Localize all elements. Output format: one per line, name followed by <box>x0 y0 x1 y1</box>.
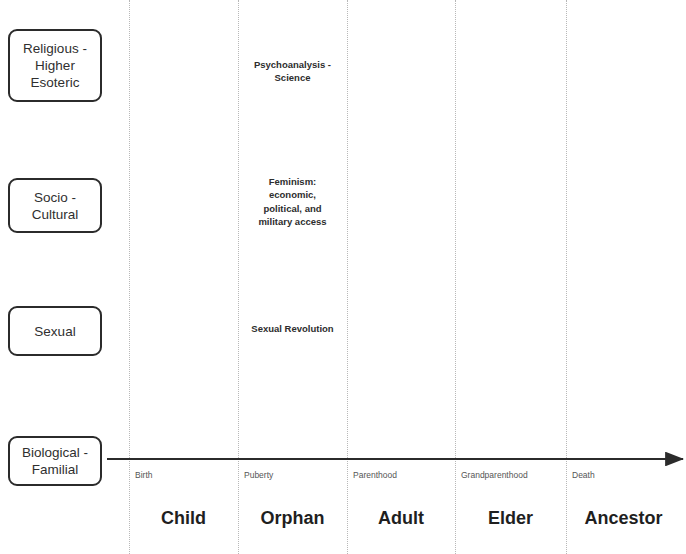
event-label-parenthood: Parenthood <box>353 470 397 480</box>
stage-label-child: Child <box>129 508 238 529</box>
stage-label-elder: Elder <box>455 508 566 529</box>
domain-box-sexual: Sexual <box>8 306 102 356</box>
developmental-stages-diagram: Religious - Higher EsotericSocio - Cultu… <box>0 0 686 554</box>
domain-box-religious-higher-esoteric: Religious - Higher Esoteric <box>8 29 102 102</box>
stage-label-orphan: Orphan <box>238 508 347 529</box>
grandparenthood-gridline <box>455 0 456 554</box>
event-label-death: Death <box>572 470 595 480</box>
event-label-birth: Birth <box>135 470 152 480</box>
death-gridline <box>566 0 567 554</box>
parenthood-gridline <box>347 0 348 554</box>
domain-box-socio-cultural: Socio - Cultural <box>8 178 102 233</box>
feminism-annotation: Feminism: economic, political, and milit… <box>238 175 347 229</box>
event-label-grandparenthood: Grandparenthood <box>461 470 528 480</box>
sexual-revolution-annotation: Sexual Revolution <box>236 322 349 335</box>
event-label-puberty: Puberty <box>244 470 273 480</box>
psychoanalysis-science-annotation: Psychoanalysis - Science <box>238 58 347 85</box>
domain-box-biological-familial: Biological - Familial <box>8 436 102 486</box>
birth-gridline <box>129 0 130 554</box>
stage-label-adult: Adult <box>347 508 455 529</box>
stage-label-ancestor: Ancestor <box>566 508 681 529</box>
